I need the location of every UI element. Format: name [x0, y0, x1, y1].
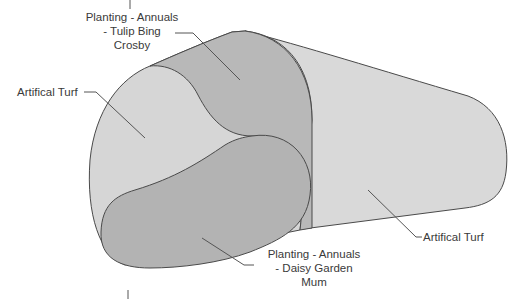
tulip-label-line-2: - Tulip Bing: [72, 24, 192, 38]
tulip-planting-label: Planting - Annuals - Tulip Bing Crosby: [72, 10, 192, 52]
turf-right-label: Artifical Turf: [423, 230, 484, 244]
daisy-label-line-2: - Daisy Garden: [253, 261, 375, 275]
daisy-planting-label: Planting - Annuals - Daisy Garden Mum: [253, 247, 375, 289]
tulip-label-line-1: Planting - Annuals: [72, 10, 192, 24]
daisy-label-line-3: Mum: [253, 275, 375, 289]
turf-left-label: Artifical Turf: [17, 85, 78, 99]
tulip-label-line-3: Crosby: [72, 38, 192, 52]
daisy-label-line-1: Planting - Annuals: [253, 247, 375, 261]
